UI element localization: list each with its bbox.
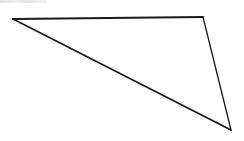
top-edge (13, 17, 203, 19)
triangle-diagram (0, 0, 244, 141)
right-edge (203, 17, 231, 130)
hypotenuse-edge (13, 19, 231, 130)
